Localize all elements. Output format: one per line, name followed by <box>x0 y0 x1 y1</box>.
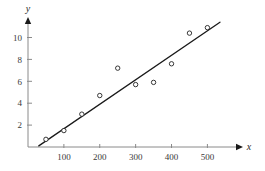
data-point <box>169 62 173 66</box>
data-point <box>80 112 84 116</box>
data-point <box>133 82 137 86</box>
x-tick-label: 100 <box>57 152 71 162</box>
regression-trendline <box>39 22 220 146</box>
plot-canvas: 100200300400500 246810 x y <box>0 0 265 171</box>
data-point-group <box>44 25 210 141</box>
y-tick-label: 6 <box>18 77 23 87</box>
x-axis-label: x <box>246 141 252 152</box>
y-tick-label: 8 <box>18 55 23 65</box>
x-tick-label: 200 <box>93 152 107 162</box>
scatter-plot-figure: 100200300400500 246810 x y <box>0 0 265 171</box>
y-tick-label: 2 <box>18 120 23 130</box>
y-axis-label: y <box>25 3 31 14</box>
data-point <box>44 137 48 141</box>
data-point <box>205 25 209 29</box>
x-axis-arrow-icon <box>236 144 243 150</box>
x-tick-label: 300 <box>129 152 143 162</box>
data-point <box>151 80 155 84</box>
data-point <box>98 93 102 97</box>
data-point <box>62 128 66 132</box>
y-tick-label: 4 <box>18 98 23 108</box>
y-axis-ticks: 246810 <box>13 33 32 131</box>
x-tick-label: 500 <box>201 152 215 162</box>
x-tick-label: 400 <box>165 152 179 162</box>
y-axis-arrow-icon <box>25 17 31 24</box>
y-tick-label: 10 <box>13 33 23 43</box>
data-point <box>116 66 120 70</box>
data-point <box>187 31 191 35</box>
